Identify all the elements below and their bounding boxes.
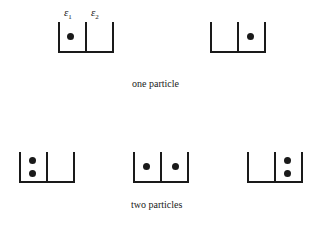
box-wall <box>247 152 249 183</box>
two-particles-caption: two particles <box>131 200 182 210</box>
box-wall <box>301 152 303 183</box>
particle-dot <box>284 170 291 177</box>
two-particles-config-3 <box>247 152 303 183</box>
two-particles-config-2 <box>133 152 189 183</box>
one-particle-caption: one particle <box>132 79 179 89</box>
box-wall <box>19 152 21 183</box>
box-wall <box>58 22 60 53</box>
box-floor <box>247 181 303 183</box>
box-floor <box>210 51 266 53</box>
box-divider <box>237 22 239 53</box>
box-divider <box>160 152 162 183</box>
two-particles-config-1 <box>19 152 75 183</box>
particle-dot <box>29 170 36 177</box>
box-floor <box>133 181 189 183</box>
particle-dot <box>172 163 179 170</box>
one-particle-config-2 <box>210 22 266 53</box>
particle-dot <box>29 157 36 164</box>
particle-dot <box>284 157 291 164</box>
box-wall <box>187 152 189 183</box>
particle-dot <box>247 33 254 40</box>
box-wall <box>112 22 114 53</box>
particle-dot <box>67 33 74 40</box>
epsilon-2-subscript: 2 <box>95 13 99 21</box>
box-floor <box>19 181 75 183</box>
epsilon-1-subscript: 1 <box>68 13 72 21</box>
box-divider <box>46 152 48 183</box>
box-floor <box>58 51 114 53</box>
box-wall <box>210 22 212 53</box>
box-wall <box>133 152 135 183</box>
box-wall <box>73 152 75 183</box>
epsilon-1-label: ε1 <box>64 7 72 21</box>
box-divider <box>85 22 87 53</box>
box-divider <box>274 152 276 183</box>
one-particle-config-1 <box>58 22 114 53</box>
particle-dot <box>143 163 150 170</box>
epsilon-2-label: ε2 <box>91 7 99 21</box>
box-wall <box>264 22 266 53</box>
